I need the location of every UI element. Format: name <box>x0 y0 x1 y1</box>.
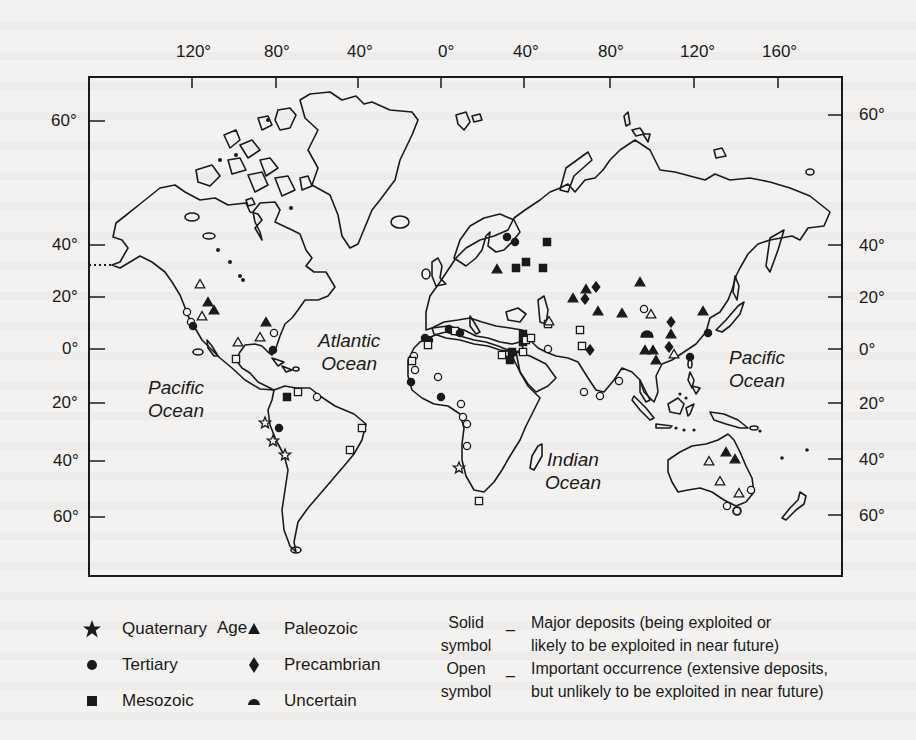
java-outline <box>656 424 672 428</box>
ocean-label-line: Indian <box>545 448 601 471</box>
uncertain-deposit-icon <box>641 331 653 337</box>
ocean-label-pacific-west: Pacific Ocean <box>148 376 204 422</box>
note-desc-line: Important occurrence (extensive deposits… <box>531 657 828 680</box>
madagascar-outline <box>530 444 542 470</box>
circle-deposit-icon <box>704 329 711 336</box>
lon-label: 160° <box>762 42 797 62</box>
lon-label: 40° <box>513 42 539 62</box>
circle-deposit-icon <box>580 388 587 395</box>
ocean-label-line: Ocean <box>148 399 204 422</box>
lat-label: 20° <box>52 393 78 413</box>
diamond-deposit-icon <box>581 294 589 304</box>
square-deposit-icon <box>543 238 550 245</box>
circle-deposit-icon <box>189 322 196 329</box>
circle-deposit-icon <box>463 420 470 427</box>
lat-label: 40° <box>859 450 885 470</box>
square-deposit-icon <box>294 388 301 395</box>
lon-label: 40° <box>347 42 373 62</box>
circle-deposit-icon <box>183 308 190 315</box>
circle-deposit-icon <box>723 502 730 509</box>
italy-outline <box>470 316 480 334</box>
lon-label: 80° <box>264 42 290 62</box>
star-deposit-icon <box>267 435 278 446</box>
circle-deposit-icon <box>269 346 276 353</box>
triangle-deposit-icon <box>261 318 271 326</box>
square-icon <box>82 691 104 711</box>
misc-dots <box>216 118 809 460</box>
note-label-line: symbol <box>431 680 501 703</box>
lat-label: 0° <box>62 339 78 359</box>
caribbean-island <box>293 367 299 371</box>
legend-label: Tertiary <box>122 655 178 675</box>
circle-deposit-icon <box>511 238 518 245</box>
note-open-symbol-desc: Important occurrence (extensive deposits… <box>531 657 828 703</box>
circle-deposit-icon <box>640 305 647 312</box>
note-open-symbol-label: Open symbol <box>431 657 501 703</box>
black-sea-outline <box>506 308 526 322</box>
hudson-island <box>185 213 199 221</box>
pacific-island-west <box>193 349 203 355</box>
note-desc-line: Major deposits (being exploited or <box>531 611 779 634</box>
lon-label: 120° <box>176 42 211 62</box>
note-desc-line: but unlikely to be exploited in near fut… <box>531 680 828 703</box>
triangle-deposit-icon <box>617 309 627 317</box>
square-deposit-icon <box>519 348 526 355</box>
square-deposit-icon <box>232 355 239 362</box>
lat-label: 20° <box>859 288 885 308</box>
square-deposit-icon <box>522 258 529 265</box>
circle-deposit-icon <box>615 377 622 384</box>
triangle-deposit-icon <box>492 265 502 273</box>
triangle-deposit-icon <box>651 356 661 364</box>
wrangel-island <box>806 169 814 175</box>
ocean-label-indian: Indian Ocean <box>545 448 601 494</box>
square-deposit-icon <box>408 357 415 364</box>
arabia-outline <box>516 352 556 392</box>
triangle-deposit-icon <box>730 455 740 463</box>
baja-california <box>207 340 218 356</box>
note-dash: _ <box>506 614 515 632</box>
square-deposit-icon <box>506 356 513 363</box>
ocean-label-atlantic: Atlantic Ocean <box>318 329 380 375</box>
lon-label: 0° <box>438 42 454 62</box>
borneo-outline <box>668 398 684 414</box>
note-label-line: Open <box>431 657 501 680</box>
triangle-deposit-icon <box>666 330 676 338</box>
circle-deposit-icon <box>411 366 418 373</box>
circle-deposit-icon <box>434 373 441 380</box>
circle-deposit-icon <box>503 233 510 240</box>
lat-label: 40° <box>859 236 885 256</box>
circle-deposit-icon <box>686 353 693 360</box>
circle-deposit-icon <box>747 486 754 493</box>
triangle-deposit-icon <box>255 333 265 341</box>
iceland-outline <box>391 216 409 228</box>
square-deposit-icon <box>424 341 431 348</box>
ocean-label-line: Atlantic <box>318 329 380 352</box>
lon-label: 120° <box>680 42 715 62</box>
square-deposit-icon <box>527 334 534 341</box>
square-deposit-icon <box>283 393 290 400</box>
legend-label: Precambrian <box>284 655 380 675</box>
circle-deposit-icon <box>457 400 464 407</box>
square-deposit-icon <box>512 264 519 271</box>
kamchatka-outline <box>766 230 784 272</box>
legend-item-uncertain: Uncertain <box>244 691 357 711</box>
lat-label: 60° <box>51 111 77 131</box>
lat-label: 20° <box>859 394 885 414</box>
triangle-icon <box>244 619 266 639</box>
new-guinea-outline <box>710 412 748 428</box>
note-solid-symbol-label: Solid symbol <box>431 611 501 657</box>
latitude-ticks-left <box>89 121 105 517</box>
circle-deposit-icon <box>733 507 740 514</box>
square-deposit-icon <box>358 424 365 431</box>
caribbean-islands <box>272 358 292 372</box>
lat-label: 60° <box>859 105 885 125</box>
malay-peninsula <box>640 380 650 402</box>
circle-deposit-icon <box>544 345 551 352</box>
ocean-label-line: Ocean <box>318 352 380 375</box>
circle-deposit-icon <box>407 378 414 385</box>
circle-deposit-icon <box>270 329 277 336</box>
triangle-deposit-icon <box>568 294 578 302</box>
star-icon <box>82 619 104 639</box>
hudson-island <box>203 233 215 239</box>
new-siberian-islands <box>714 148 726 158</box>
